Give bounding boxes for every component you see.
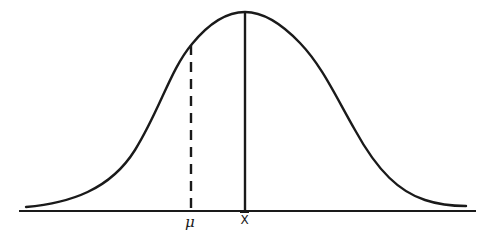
xbar-label-text: X: [240, 213, 248, 227]
normal-curve-diagram: [0, 0, 490, 237]
mu-label: μ: [185, 215, 195, 230]
xbar-label: X: [240, 212, 249, 226]
